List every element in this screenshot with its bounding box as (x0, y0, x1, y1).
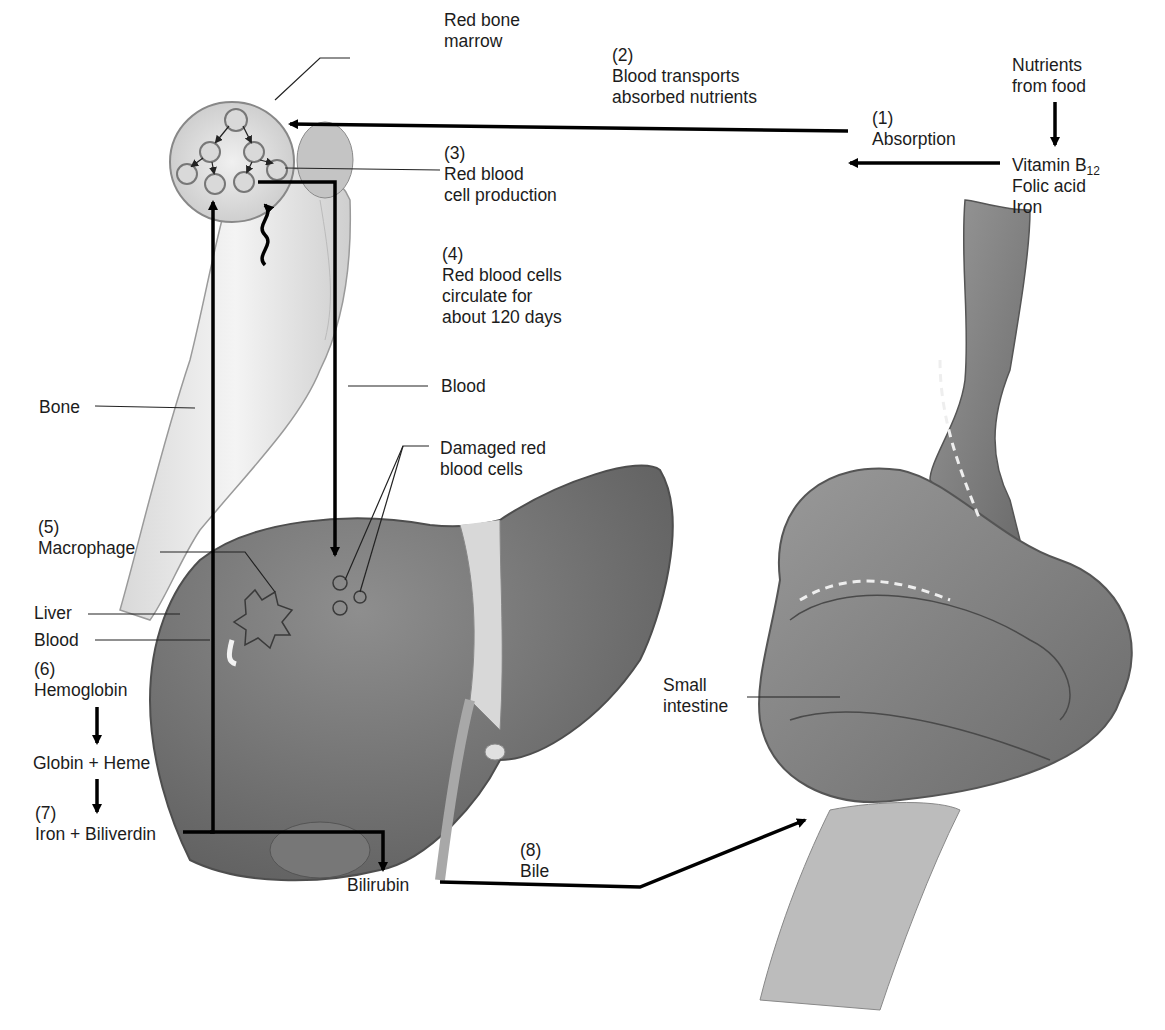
red-bone-marrow (170, 102, 294, 222)
liver-illustration (150, 466, 673, 881)
label-step-7-iron-biliverdin: (7)Iron + Biliverdin (35, 803, 156, 845)
label-step-4: (4)Red blood cellscirculate forabout 120… (442, 244, 562, 328)
label-small-intestine: Smallintestine (663, 675, 728, 717)
label-step-2: (2)Blood transportsabsorbed nutrients (612, 45, 757, 108)
label-blood-left: Blood (34, 630, 79, 651)
arrow-nutrients-to-marrow (290, 124, 848, 131)
label-step-3: (3)Red bloodcell production (444, 143, 557, 206)
label-step-6-hemoglobin: (6)Hemoglobin (34, 659, 127, 701)
label-step-5-macrophage: (5)Macrophage (38, 517, 135, 559)
rbc-lifecycle-diagram (0, 0, 1165, 1030)
label-step-8-bile: (8)Bile (520, 840, 549, 882)
label-step-1-absorption: (1)Absorption (872, 108, 956, 150)
small-intestine-illustration (759, 200, 1132, 1010)
label-red-bone-marrow: Red bonemarrow (444, 10, 520, 52)
arrow-bile-to-intestine (440, 820, 805, 887)
label-nutrients-from-food: Nutrientsfrom food (1012, 55, 1086, 97)
label-damaged-rbc: Damaged redblood cells (440, 438, 546, 480)
label-liver: Liver (34, 603, 72, 624)
label-blood-top: Blood (441, 376, 486, 397)
label-vitamins: Vitamin B12 Folic acidIron (1012, 155, 1100, 218)
label-bone: Bone (39, 397, 80, 418)
label-bilirubin: Bilirubin (347, 875, 409, 896)
label-globin-heme: Globin + Heme (33, 753, 150, 774)
